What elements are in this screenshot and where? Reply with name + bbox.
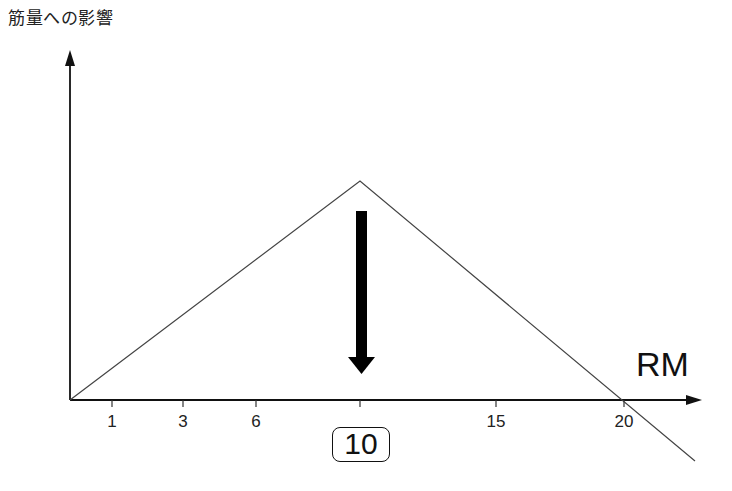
- tick-label-3: 3: [178, 412, 187, 432]
- highlighted-tick-10: 10: [332, 427, 390, 462]
- effect-line: [70, 181, 695, 461]
- down-arrow-shaft: [356, 211, 367, 359]
- tick-label-20: 20: [615, 412, 634, 432]
- tick-label-1: 1: [107, 412, 116, 432]
- x-ticks: [112, 400, 624, 407]
- x-axis-label: RM: [636, 345, 689, 384]
- tick-label-6: 6: [251, 412, 260, 432]
- tick-label-15: 15: [487, 412, 506, 432]
- y-axis-arrowhead-icon: [65, 50, 75, 66]
- x-axis-arrowhead-icon: [686, 395, 702, 405]
- down-arrow-icon: [348, 357, 375, 374]
